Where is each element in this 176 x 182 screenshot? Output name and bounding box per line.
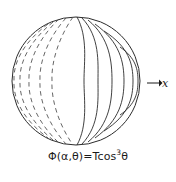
- figure-caption: Φ(α,θ)=Tcos3θ: [0, 150, 176, 163]
- front-contour-5: [104, 31, 133, 131]
- caption-suffix: θ: [121, 150, 128, 163]
- front-contour-4: [95, 24, 124, 138]
- front-contours-group: [77, 17, 138, 145]
- back-contours-group: [14, 17, 73, 145]
- front-contour-1: [77, 17, 85, 145]
- back-contour-2: [20, 22, 53, 140]
- back-contour-3: [29, 19, 59, 143]
- sphere-outline: [12, 17, 140, 145]
- front-contour-3: [88, 20, 112, 142]
- figure-container: x Φ(α,θ)=Tcos3θ: [0, 0, 176, 182]
- back-contour-1: [14, 24, 48, 138]
- x-axis-label: x: [162, 77, 168, 90]
- x-axis-arrow: [147, 80, 163, 87]
- back-contour-5: [52, 17, 73, 145]
- caption-prefix: Φ(α,θ)=Tcos: [48, 150, 116, 163]
